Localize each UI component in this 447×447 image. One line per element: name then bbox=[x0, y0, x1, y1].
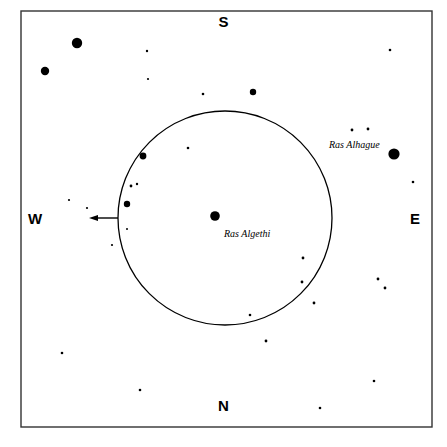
star-marker bbox=[61, 352, 64, 355]
star-marker bbox=[136, 183, 138, 185]
star-label-ras-alhague: Ras Alhague bbox=[329, 140, 380, 150]
chart-background bbox=[0, 0, 447, 447]
star-marker bbox=[384, 287, 387, 290]
star-marker bbox=[389, 49, 392, 52]
star-chart: S N W E Ras Algethi Ras Alhague bbox=[0, 0, 447, 447]
star-marker bbox=[187, 147, 190, 150]
compass-label-west: W bbox=[24, 211, 46, 226]
star-marker bbox=[130, 185, 133, 188]
star-marker bbox=[412, 181, 415, 184]
compass-label-south: S bbox=[0, 14, 447, 29]
star-marker bbox=[265, 340, 268, 343]
star-marker bbox=[202, 93, 205, 96]
star-marker bbox=[72, 38, 82, 48]
star-marker bbox=[388, 148, 399, 159]
star-marker bbox=[302, 257, 305, 260]
compass-label-east: E bbox=[404, 211, 426, 226]
star-marker bbox=[377, 278, 380, 281]
star-marker bbox=[146, 50, 148, 52]
star-marker bbox=[139, 389, 142, 392]
star-marker bbox=[301, 281, 304, 284]
star-marker bbox=[367, 128, 370, 131]
star-marker bbox=[124, 201, 130, 207]
star-marker bbox=[68, 199, 70, 201]
sky-canvas bbox=[0, 0, 447, 447]
star-marker bbox=[210, 211, 220, 221]
star-marker bbox=[126, 228, 128, 230]
star-marker bbox=[140, 153, 147, 160]
star-marker bbox=[249, 314, 252, 317]
star-marker bbox=[351, 129, 354, 132]
star-marker bbox=[41, 67, 49, 75]
star-label-ras-algethi: Ras Algethi bbox=[224, 229, 270, 239]
star-marker bbox=[313, 302, 316, 305]
star-marker bbox=[86, 207, 88, 209]
star-marker bbox=[373, 380, 376, 383]
star-marker bbox=[147, 78, 149, 80]
star-marker bbox=[111, 244, 113, 246]
star-marker bbox=[250, 89, 256, 95]
compass-label-north: N bbox=[0, 398, 447, 413]
